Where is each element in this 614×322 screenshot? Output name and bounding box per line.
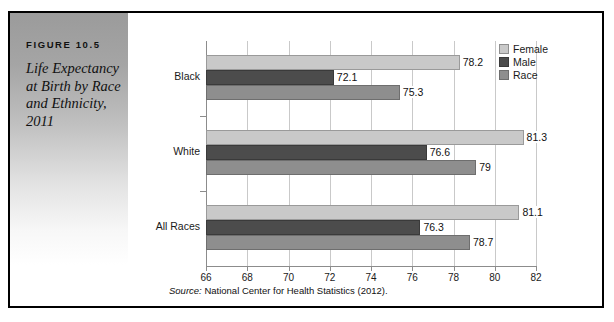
x-axis-tick-label: 72 [318, 272, 342, 283]
x-axis-tick-label: 80 [483, 272, 507, 283]
x-axis-tick-label: 74 [359, 272, 383, 283]
bar-value-label: 78.7 [471, 236, 495, 248]
bar-race-all-races [206, 235, 470, 250]
legend-label: Male [513, 56, 536, 68]
legend-swatch-race [499, 70, 509, 80]
x-axis-tick [495, 266, 496, 271]
figure-frame: FIGURE 10.5 Life Expectancy at Birth by … [8, 11, 604, 308]
bar-value-label: 75.3 [401, 86, 425, 98]
chart-legend: FemaleMaleRace [495, 40, 565, 86]
legend-label: Race [513, 69, 538, 81]
bar-value-label: 81.1 [520, 206, 544, 218]
x-axis-tick-label: 70 [277, 272, 301, 283]
x-axis-tick [330, 266, 331, 271]
source-text: National Center for Health Statistics (2… [202, 285, 388, 296]
source-lead: Source: [169, 285, 202, 296]
x-axis-tick [536, 266, 537, 271]
bar-male-black [206, 70, 334, 85]
gridline [454, 41, 455, 266]
bar-female-all-races [206, 205, 519, 220]
bar-male-all-races [206, 220, 420, 235]
x-axis-tick [247, 266, 248, 271]
figure-title: Life Expectancy at Birth by Race and Eth… [26, 60, 122, 130]
legend-swatch-female [499, 44, 509, 54]
bar-male-white [206, 145, 427, 160]
category-label: All Races [114, 220, 200, 232]
x-axis-tick [206, 266, 207, 271]
bar-female-black [206, 55, 460, 70]
x-axis-tick-label: 68 [235, 272, 259, 283]
bar-value-label: 79 [477, 161, 493, 173]
bar-value-label: 76.3 [421, 221, 445, 233]
category-label: White [114, 145, 200, 157]
x-axis-tick [412, 266, 413, 271]
bar-value-label: 81.3 [525, 131, 549, 143]
bar-race-black [206, 85, 400, 100]
category-label: Black [114, 70, 200, 82]
legend-swatch-male [499, 57, 509, 67]
bar-value-label: 78.2 [461, 56, 485, 68]
x-axis-tick [371, 266, 372, 271]
legend-label: Female [513, 43, 548, 55]
x-axis-tick-label: 78 [442, 272, 466, 283]
legend-item-male[interactable]: Male [499, 56, 561, 68]
x-axis-tick [289, 266, 290, 271]
source-note: Source: National Center for Health Stati… [169, 285, 388, 296]
bar-value-label: 76.6 [428, 146, 452, 158]
bar-female-white [206, 130, 524, 145]
x-axis-tick-label: 82 [524, 272, 548, 283]
x-axis-tick-label: 66 [194, 272, 218, 283]
legend-item-race[interactable]: Race [499, 69, 561, 81]
figure-caption-band: FIGURE 10.5 Life Expectancy at Birth by … [10, 13, 128, 306]
legend-item-female[interactable]: Female [499, 43, 561, 55]
bar-value-label: 72.1 [335, 71, 359, 83]
y-axis-tick [200, 191, 206, 192]
figure-number: FIGURE 10.5 [26, 39, 101, 50]
bar-race-white [206, 160, 476, 175]
x-axis-tick-label: 76 [400, 272, 424, 283]
y-axis-tick [200, 116, 206, 117]
x-axis-tick [454, 266, 455, 271]
